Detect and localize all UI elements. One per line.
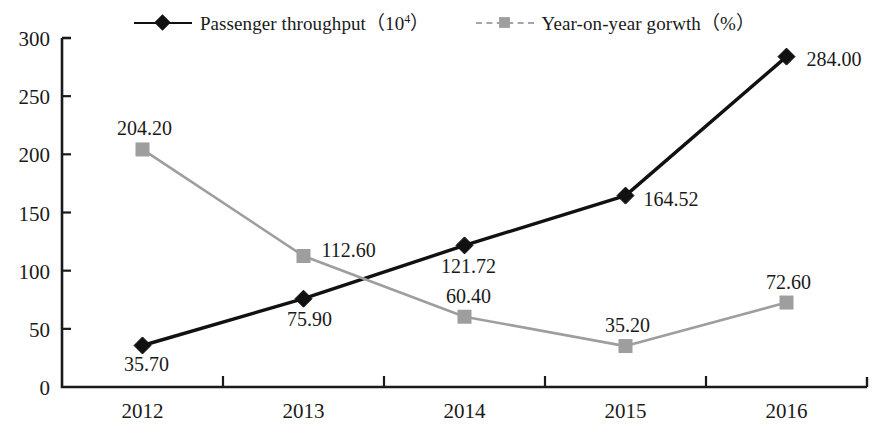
y-axis-tick-label: 150 — [19, 202, 51, 226]
y-axis-tick-label: 250 — [19, 85, 51, 109]
x-axis-tick-label: 2016 — [766, 399, 808, 423]
data-point-label: 60.40 — [446, 285, 491, 307]
y-axis-tick-label: 300 — [19, 27, 51, 51]
y-axis-tick-label: 50 — [29, 318, 50, 342]
x-axis-tick-label: 2012 — [122, 399, 164, 423]
data-point-label: 164.52 — [644, 188, 699, 210]
data-point-label: 204.20 — [117, 117, 172, 139]
y-axis-tick-label: 100 — [19, 260, 51, 284]
data-point-label: 35.20 — [605, 314, 650, 336]
chart-container: Passenger throughput（104） Year-on-year g… — [0, 0, 889, 440]
data-point-label: 284.00 — [807, 48, 862, 70]
data-point-label: 112.60 — [322, 239, 376, 261]
y-axis-tick-label: 200 — [19, 143, 51, 167]
square-marker-icon — [780, 296, 794, 310]
square-marker-icon — [136, 142, 150, 156]
data-point-label: 121.72 — [441, 255, 496, 277]
x-axis-tick-label: 2013 — [283, 399, 325, 423]
diamond-marker-icon — [295, 290, 312, 307]
diamond-marker-icon — [134, 337, 151, 354]
y-axis-tick-label: 0 — [40, 376, 51, 400]
data-point-label: 75.90 — [287, 308, 332, 330]
x-axis-tick-label: 2015 — [605, 399, 647, 423]
square-marker-icon — [297, 249, 311, 263]
data-point-label: 72.60 — [766, 271, 811, 293]
diamond-marker-icon — [456, 237, 473, 254]
plot-area: 05010015020025030020122013201420152016 3… — [0, 0, 889, 440]
data-point-label: 35.70 — [124, 353, 169, 375]
data-labels-layer: 35.7075.90121.72164.52284.00204.20112.60… — [117, 48, 862, 376]
x-axis-tick-label: 2014 — [444, 399, 487, 423]
square-marker-icon — [619, 339, 633, 353]
square-marker-icon — [458, 310, 472, 324]
